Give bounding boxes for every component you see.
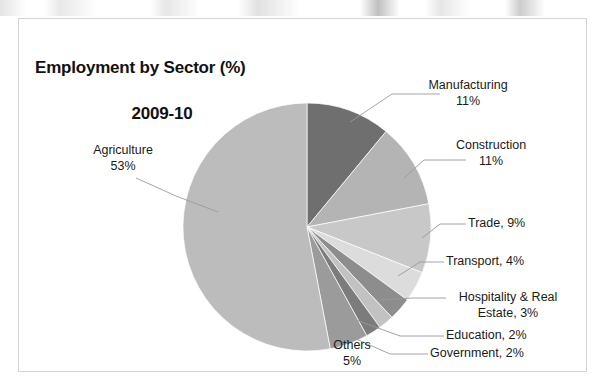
pie-label-government: Government, 2%: [430, 346, 570, 362]
pie-label-hospitality: Hospitality & Real Estate, 3%: [446, 290, 570, 321]
pie-label-transport: Transport, 4%: [446, 254, 576, 270]
pie-label-agriculture: Agriculture 53%: [74, 143, 172, 174]
pie-slice-group: [183, 103, 431, 351]
pie-label-trade: Trade, 9%: [468, 216, 578, 232]
pie-label-manufacturing: Manufacturing 11%: [406, 78, 530, 109]
pie-label-construction: Construction 11%: [434, 138, 548, 169]
pie-label-others: Others 5%: [318, 338, 386, 369]
pie-label-education: Education, 2%: [446, 328, 576, 344]
